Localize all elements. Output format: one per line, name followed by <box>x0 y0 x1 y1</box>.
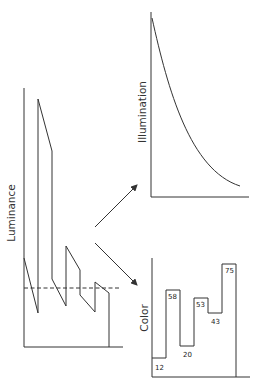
color-value-label: 12 <box>155 364 164 372</box>
color-value-label: 58 <box>168 293 177 301</box>
color-value-label: 75 <box>225 267 234 275</box>
illumination-panel: Illumination <box>136 12 249 197</box>
luminance-panel: Luminance <box>5 88 123 347</box>
luminance-signal <box>24 99 109 347</box>
arrow-to-color <box>95 243 137 285</box>
color-value-label: 43 <box>211 318 220 326</box>
luminance-axis-label: Luminance <box>5 184 17 241</box>
color-step-signal <box>152 264 236 377</box>
color-axis-label: Color <box>138 304 150 332</box>
illumination-axis-label: Illumination <box>136 81 148 143</box>
illumination-curve <box>152 18 240 186</box>
color-value-label: 53 <box>196 301 205 309</box>
diagram-canvas: Luminance Illumination Color 12 58 20 53… <box>0 0 261 391</box>
arrow-to-illumination <box>95 185 137 227</box>
color-panel: Color 12 58 20 53 43 75 <box>138 258 250 377</box>
color-value-label: 20 <box>183 351 192 359</box>
